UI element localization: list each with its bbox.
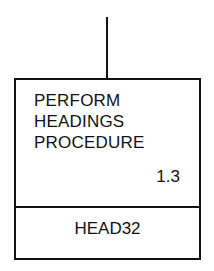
module-code: HEAD32: [16, 218, 199, 239]
module-divider: [16, 206, 199, 208]
module-title-line: PROCEDURE: [34, 132, 144, 153]
module-number: 1.3: [156, 166, 180, 187]
parent-connector-line: [106, 17, 108, 78]
module-title: PERFORM HEADINGS PROCEDURE: [34, 90, 144, 153]
module-title-line: PERFORM: [34, 90, 144, 111]
module-box: PERFORM HEADINGS PROCEDURE 1.3 HEAD32: [14, 78, 201, 260]
module-title-line: HEADINGS: [34, 111, 144, 132]
